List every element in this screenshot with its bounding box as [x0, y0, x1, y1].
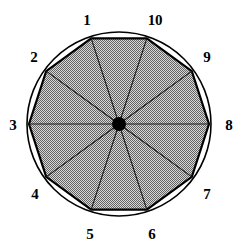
- center-dot: [112, 117, 126, 131]
- vertex-10-label: 10: [148, 13, 163, 28]
- decagon-figure: 12345678910: [0, 0, 242, 251]
- vertex-5-label: 5: [86, 227, 93, 242]
- vertex-2-label: 2: [30, 50, 37, 65]
- decagon-drawing: [0, 0, 242, 251]
- vertex-4-label: 4: [31, 187, 38, 202]
- vertex-3-label: 3: [9, 118, 16, 133]
- vertex-9-label: 9: [203, 50, 210, 65]
- vertex-1-label: 1: [83, 13, 90, 28]
- center-point: [112, 117, 126, 131]
- vertex-7-label: 7: [203, 187, 210, 202]
- vertex-6-label: 6: [148, 227, 155, 242]
- vertex-8-label: 8: [225, 118, 232, 133]
